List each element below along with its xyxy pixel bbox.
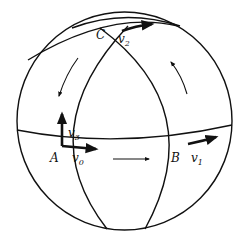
- point-label-a: A: [50, 152, 59, 164]
- vector-label-v0: v0: [72, 152, 84, 164]
- arrow-b-to-c[interactable]: [171, 62, 187, 94]
- vector-v0: [62, 146, 96, 149]
- point-label-c: C: [96, 29, 105, 41]
- meridian-left: [73, 26, 128, 229]
- vector-label-v3: v3: [68, 127, 80, 139]
- meridian-right: [100, 28, 169, 229]
- equator: [17, 125, 232, 139]
- arrow-c-to-a[interactable]: [59, 58, 78, 96]
- vector-label-v1: v1: [191, 152, 203, 164]
- vector-v1: [188, 137, 216, 144]
- point-label-b: B: [171, 152, 180, 164]
- vector-label-v2: v2: [118, 33, 130, 45]
